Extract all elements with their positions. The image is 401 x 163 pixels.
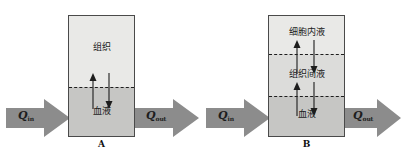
panel-a-caption: A (68, 139, 135, 149)
flow-label-in-b-subscript: in (228, 115, 234, 122)
flow-label-out-b-subscript: out (363, 115, 374, 122)
flow-arrow-out-a-shape (135, 99, 199, 137)
panel-b-arrow-down-upper (311, 40, 318, 74)
panel-b-arrow-up-lower (294, 82, 301, 116)
figure-canvas: Qin 组织 血液 Qout A (0, 0, 401, 163)
panel-b-arrow-down-lower (311, 82, 318, 116)
flow-arrow-out-b: Qout (345, 99, 401, 137)
flow-arrow-in-a-shape (6, 99, 70, 137)
panel-b-caption: B (268, 139, 345, 149)
panel-a-arrow-up (90, 73, 97, 109)
flow-arrow-in-a: Qin (6, 99, 70, 137)
flow-arrow-in-b-shape (206, 99, 270, 137)
flow-label-in-b: Qin (218, 110, 234, 123)
flow-label-out-a-subscript: out (156, 115, 167, 122)
flow-label-out-a: Qout (146, 110, 166, 123)
flow-arrow-in-b: Qin (206, 99, 270, 137)
panel-a: 组织 血液 (68, 15, 135, 137)
flow-label-in-a: Qin (18, 110, 34, 123)
panel-a-arrow-down (106, 73, 113, 109)
flow-label-out-b: Qout (353, 110, 373, 123)
flow-arrow-out-a: Qout (135, 99, 199, 137)
panel-b: 细胞内液 组织间液 血液 (268, 15, 345, 137)
panel-b-arrow-up-upper (294, 40, 301, 74)
panel-b-exchange-arrows (269, 16, 344, 136)
flow-label-in-a-subscript: in (28, 115, 34, 122)
panel-a-exchange-arrows (69, 16, 134, 136)
